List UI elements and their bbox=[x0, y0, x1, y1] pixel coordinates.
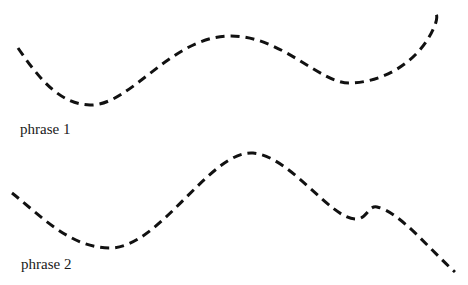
phrase-1-label: phrase 1 bbox=[20, 121, 70, 138]
phrase-1-contour bbox=[18, 14, 437, 105]
phrase-2-contour bbox=[12, 153, 455, 272]
contour-diagram bbox=[0, 0, 468, 285]
phrase-2-label: phrase 2 bbox=[21, 256, 71, 273]
